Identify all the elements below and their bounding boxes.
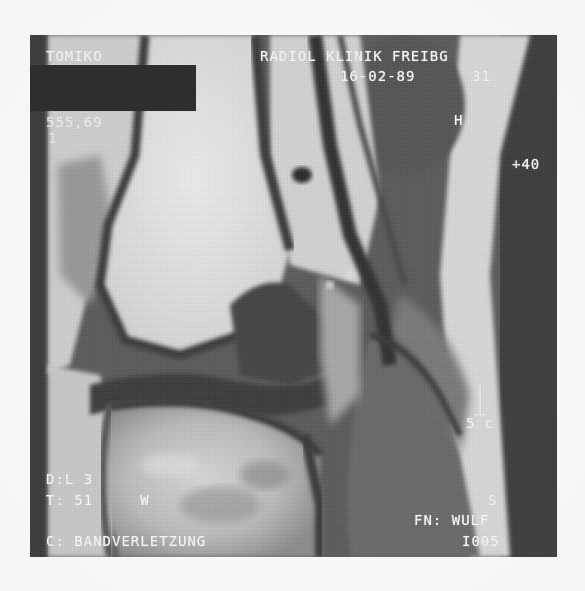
- top-left-line3: 1: [48, 131, 57, 145]
- bottom-left-line2: T: 51 W: [46, 493, 150, 507]
- date-time-text: 16-02-89 31: [340, 69, 491, 83]
- mri-image: TOMIKO 555,69 1 RADIOL KLINIK FREIBG 16-…: [30, 35, 557, 557]
- top-left-line2: 555,69: [46, 115, 103, 129]
- patient-name-text: TOMIKO: [46, 49, 103, 63]
- bottom-left-line1: D:L 3: [46, 472, 93, 486]
- institution-text: RADIOL KLINIK FREIBG: [260, 49, 449, 63]
- redaction-bar: [30, 65, 196, 111]
- comment-text: C: BANDVERLETZUNG: [46, 534, 206, 548]
- image-number-text: I005: [462, 534, 500, 548]
- fn-text: FN: WULF: [414, 513, 489, 527]
- marker-h-text: H: [454, 113, 463, 127]
- knee-anatomy: [30, 35, 557, 557]
- value-text: +40: [512, 157, 540, 171]
- orientation-text: S: [488, 493, 497, 507]
- scale-label-text: 5 c: [466, 416, 494, 430]
